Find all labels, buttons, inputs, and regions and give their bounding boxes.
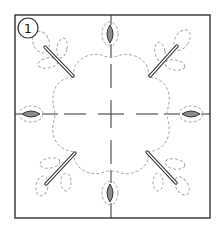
step-number-text: 1 <box>24 21 32 36</box>
block-frame <box>15 15 210 218</box>
leaf-right <box>182 111 200 117</box>
leaf-bottom <box>107 184 113 202</box>
leaf-top <box>107 25 113 43</box>
leaf-left <box>22 111 40 117</box>
applique-pattern-diagram: 1 <box>0 0 222 228</box>
step-number-badge: 1 <box>18 18 38 38</box>
center-guidelines <box>15 15 210 218</box>
